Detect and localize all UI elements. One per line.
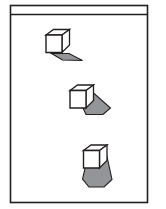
cube-1-front-face (46, 35, 62, 53)
cube-shadow-diagram (0, 0, 166, 209)
cube-with-long-shadow (83, 145, 113, 187)
cube-3 (84, 145, 108, 168)
cube-2 (70, 85, 94, 108)
cube-1 (46, 30, 70, 53)
figure-container (0, 0, 166, 209)
cube-2-front-face (70, 91, 86, 109)
cube-3-front-face (84, 151, 100, 169)
